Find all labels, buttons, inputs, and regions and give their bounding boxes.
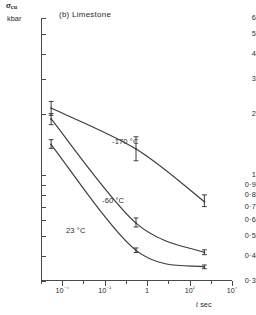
y-axis-tick: [41, 54, 46, 55]
x-axis-tick-label: 10⁴: [227, 287, 237, 294]
x-axis-title-unit: sec: [200, 300, 212, 309]
y-axis-tick: [41, 236, 46, 237]
y-axis-tick: [41, 79, 46, 80]
y-axis-tick-label: 1: [218, 171, 256, 178]
y-axis-tick: [41, 175, 46, 176]
y-axis-tick-label: 0·3: [218, 277, 256, 284]
y-axis-tick-label: 5: [218, 30, 256, 37]
x-axis-tick: [126, 281, 127, 284]
y-axis-unit-label: kbar: [7, 15, 21, 22]
x-axis-title-var: t: [196, 300, 198, 309]
y-axis-tick-label: 2: [218, 110, 256, 117]
y-axis-tick: [41, 18, 46, 19]
plot-frame: [41, 18, 232, 281]
x-axis-tick: [168, 281, 169, 284]
y-axis-symbol-subscript: cu: [11, 4, 17, 10]
series-label: 23 °C: [66, 227, 86, 235]
y-axis-tick: [41, 185, 46, 186]
x-axis-tick-label: 10⁻²: [98, 287, 111, 294]
y-axis-tick-label: 6: [218, 14, 256, 21]
y-axis-tick: [41, 114, 46, 115]
y-axis-tick: [41, 195, 46, 196]
y-axis-tick-label: 0·6: [218, 216, 256, 223]
y-axis-tick-label: 0·5: [218, 232, 256, 239]
x-axis-tick: [41, 281, 42, 284]
y-axis-tick: [41, 34, 46, 35]
x-axis-tick-label: 10²: [185, 287, 195, 294]
y-axis-tick-label: 4: [218, 50, 256, 57]
y-axis-tick-label: 0·8: [218, 191, 256, 198]
y-axis-tick: [41, 207, 46, 208]
y-axis-tick-label: 3: [218, 75, 256, 82]
y-axis-tick-label: 0·9: [218, 181, 256, 188]
x-axis-tick: [83, 281, 84, 284]
series-label: -60 °C: [102, 197, 124, 205]
x-axis-title: t sec: [196, 301, 212, 308]
y-axis-tick-label: 0·7: [218, 203, 256, 210]
series-label: -170 °C: [112, 138, 139, 146]
y-axis-tick: [41, 220, 46, 221]
x-axis-tick-label: 10⁻⁴: [56, 287, 69, 294]
x-axis-tick: [211, 281, 212, 284]
x-axis-tick-label: 1: [145, 287, 149, 294]
figure-limestone-creep-chart: σcu kbar (b) Limestone 6543210·90·80·70·…: [0, 0, 256, 315]
y-axis-symbol: σcu: [6, 1, 17, 10]
y-axis-tick-label: 0·4: [218, 252, 256, 259]
y-axis-tick: [41, 256, 46, 257]
